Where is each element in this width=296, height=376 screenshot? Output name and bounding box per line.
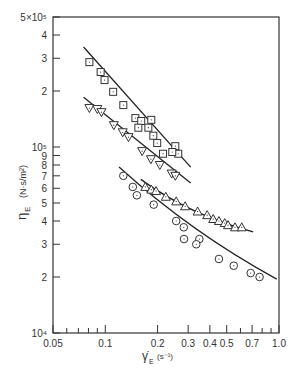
marker-center-dot: [162, 153, 163, 154]
marker-center-dot: [196, 244, 197, 245]
y-tick-label: 4: [41, 216, 47, 227]
marker-center-dot: [259, 276, 260, 277]
marker-center-dot: [138, 127, 139, 128]
marker-center-dot: [132, 186, 133, 187]
marker-center-dot: [184, 206, 185, 207]
x-axis-subscript: E: [149, 358, 154, 365]
marker-center-dot: [227, 225, 228, 226]
y-tick-label: 8: [41, 160, 47, 171]
marker-center-dot: [128, 137, 129, 138]
marker-center-dot: [151, 119, 152, 120]
marker-center-dot: [150, 159, 151, 160]
x-tick-label: 0.7: [245, 338, 259, 349]
marker-center-dot: [213, 218, 214, 219]
marker-center-dot: [175, 146, 176, 147]
y-axis-subscript: E: [23, 207, 32, 212]
marker-center-dot: [145, 186, 146, 187]
y-tick-label: 5: [41, 198, 47, 209]
y-tick-label: 4: [41, 30, 47, 41]
marker-center-dot: [207, 215, 208, 216]
marker-center-dot: [183, 238, 184, 239]
y-tick-label: 2: [41, 86, 47, 97]
marker-center-dot: [199, 238, 200, 239]
y-tick-label: 3: [41, 53, 47, 64]
marker-center-dot: [197, 211, 198, 212]
marker-center-dot: [233, 265, 234, 266]
marker-center-dot: [218, 220, 219, 221]
y-tick-label: 5×10⁵: [20, 12, 47, 23]
marker-center-dot: [151, 189, 152, 190]
axis-ticks: 10⁴2345678910⁵2345×10⁵0.050.10.20.30.40.…: [20, 12, 286, 349]
marker-center-dot: [250, 272, 251, 273]
y-tick-label: 7: [41, 171, 47, 182]
x-tick-label: 0.05: [43, 338, 63, 349]
marker-center-dot: [153, 204, 154, 205]
marker-center-dot: [123, 175, 124, 176]
y-tick-label: 2: [41, 272, 47, 283]
marker-center-dot: [172, 151, 173, 152]
marker-center-dot: [113, 125, 114, 126]
y-tick-label: 6: [41, 183, 47, 194]
marker-center-dot: [89, 107, 90, 108]
marker-center-dot: [136, 195, 137, 196]
marker-center-dot: [142, 151, 143, 152]
chart: 10⁴2345678910⁵2345×10⁵0.050.10.20.30.40.…: [0, 0, 296, 376]
marker-center-dot: [175, 175, 176, 176]
marker-center-dot: [123, 104, 124, 105]
x-tick-label: 0.1: [98, 338, 112, 349]
marker-center-dot: [100, 71, 101, 72]
x-tick-label: 0.2: [151, 338, 165, 349]
marker-center-dot: [234, 227, 235, 228]
x-tick-label: 1.0: [272, 338, 286, 349]
marker-center-dot: [89, 62, 90, 63]
y-axis-units: (N·s/m²): [18, 165, 28, 198]
marker-center-dot: [141, 120, 142, 121]
marker-center-dot: [224, 222, 225, 223]
marker-center-dot: [135, 118, 136, 119]
x-axis-title: γ̇ E (s⁻¹): [142, 349, 173, 365]
marker-center-dot: [101, 112, 102, 113]
x-tick-label: 0.3: [181, 338, 195, 349]
y-tick-label: 3: [41, 239, 47, 250]
marker-center-dot: [176, 220, 177, 221]
y-tick-label: 10⁵: [32, 142, 47, 153]
marker-center-dot: [153, 135, 154, 136]
marker-center-dot: [157, 142, 158, 143]
data-markers: [85, 59, 263, 281]
x-tick-label: 0.5: [220, 338, 234, 349]
marker-center-dot: [241, 227, 242, 228]
fit-line-circles: [119, 167, 277, 279]
marker-center-dot: [155, 190, 156, 191]
fit-lines: [84, 47, 277, 279]
marker-center-dot: [122, 132, 123, 133]
marker-center-dot: [165, 196, 166, 197]
marker-center-dot: [218, 258, 219, 259]
marker-center-dot: [178, 153, 179, 154]
marker-center-dot: [104, 79, 105, 80]
marker-center-dot: [113, 91, 114, 92]
marker-center-dot: [148, 127, 149, 128]
marker-center-dot: [183, 227, 184, 228]
x-axis-symbol: γ̇: [142, 349, 149, 363]
x-axis-units: (s⁻¹): [157, 352, 173, 361]
x-tick-label: 0.4: [203, 338, 217, 349]
y-axis-symbol: η: [14, 213, 29, 220]
y-axis-title: η E (N·s/m²): [14, 165, 32, 220]
marker-center-dot: [159, 164, 160, 165]
marker-center-dot: [176, 201, 177, 202]
